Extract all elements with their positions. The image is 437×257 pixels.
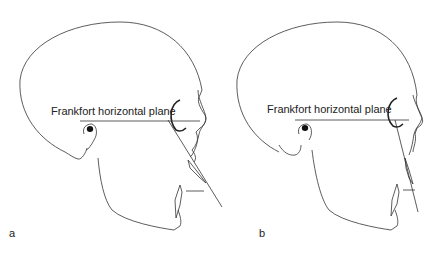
facial-angle-line bbox=[168, 120, 222, 207]
lower-lip-lens bbox=[175, 185, 182, 218]
occiput-curve bbox=[65, 148, 87, 159]
ear-canal-icon bbox=[302, 125, 308, 131]
ear-canal-icon bbox=[87, 126, 93, 132]
jaw-line bbox=[98, 158, 181, 230]
face-profile bbox=[409, 95, 422, 155]
facial-angle-line bbox=[395, 120, 418, 212]
panel-b: Frankfort horizontal plane b bbox=[237, 22, 423, 239]
frankfort-label: Frankfort horizontal plane bbox=[51, 105, 176, 117]
panel-label-a: a bbox=[9, 227, 16, 239]
upper-lip-lens bbox=[188, 160, 206, 183]
panel-label-b: b bbox=[259, 227, 265, 239]
head-outline bbox=[20, 22, 206, 157]
occiput-curve bbox=[279, 145, 301, 155]
frankfort-label: Frankfort horizontal plane bbox=[267, 103, 392, 115]
lower-lip-lens bbox=[391, 184, 399, 216]
upper-lip-lens bbox=[405, 158, 413, 184]
head-outline bbox=[237, 22, 423, 152]
figure: Frankfort horizontal plane a Frankfort h… bbox=[0, 0, 437, 257]
jaw-line bbox=[312, 150, 398, 230]
panel-a: Frankfort horizontal plane a bbox=[9, 22, 222, 239]
